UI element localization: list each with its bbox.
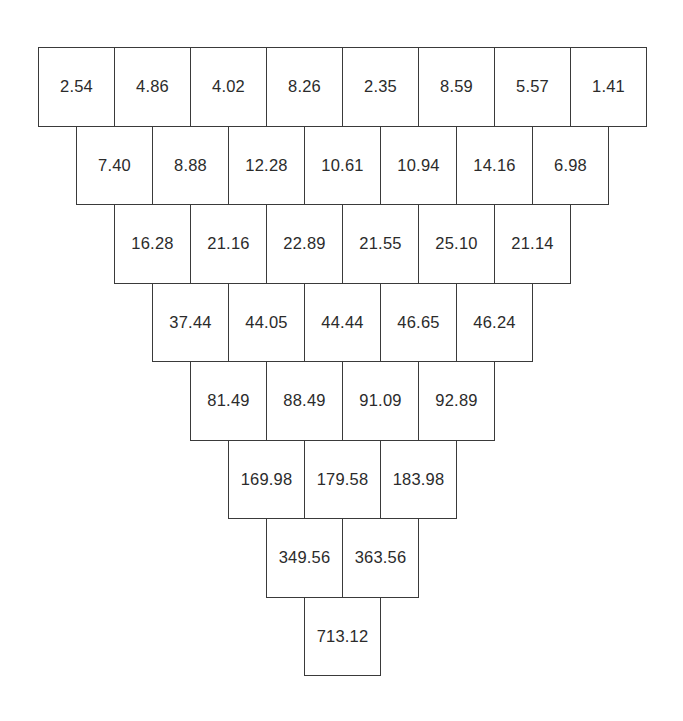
pyramid-cell: 5.57 bbox=[494, 47, 571, 127]
pyramid-cell: 183.98 bbox=[380, 440, 457, 520]
pyramid-cell: 16.28 bbox=[114, 204, 191, 284]
pyramid-cell: 21.16 bbox=[190, 204, 267, 284]
pyramid-cell: 25.10 bbox=[418, 204, 495, 284]
pyramid-cell: 81.49 bbox=[190, 361, 267, 441]
pyramid-cell: 169.98 bbox=[228, 440, 305, 520]
pyramid-cell: 10.94 bbox=[380, 126, 457, 206]
pyramid-cell: 44.44 bbox=[304, 283, 381, 363]
pyramid-cell: 8.26 bbox=[266, 47, 343, 127]
pyramid-cell: 46.65 bbox=[380, 283, 457, 363]
pyramid-cell: 4.86 bbox=[114, 47, 191, 127]
pyramid-cell: 2.35 bbox=[342, 47, 419, 127]
pyramid-cell: 8.59 bbox=[418, 47, 495, 127]
pyramid-cell: 37.44 bbox=[152, 283, 229, 363]
pyramid-cell: 6.98 bbox=[532, 126, 609, 206]
pyramid-cell: 92.89 bbox=[418, 361, 495, 441]
pyramid-cell: 88.49 bbox=[266, 361, 343, 441]
pyramid-cell: 12.28 bbox=[228, 126, 305, 206]
pyramid-cell: 22.89 bbox=[266, 204, 343, 284]
pyramid-cell: 713.12 bbox=[304, 597, 381, 677]
pyramid-cell: 91.09 bbox=[342, 361, 419, 441]
pyramid-cell: 1.41 bbox=[570, 47, 647, 127]
pyramid-cell: 4.02 bbox=[190, 47, 267, 127]
pyramid-cell: 8.88 bbox=[152, 126, 229, 206]
pyramid-cell: 44.05 bbox=[228, 283, 305, 363]
pyramid-cell: 179.58 bbox=[304, 440, 381, 520]
number-pyramid: 2.544.864.028.262.358.595.571.417.408.88… bbox=[0, 0, 683, 721]
pyramid-cell: 10.61 bbox=[304, 126, 381, 206]
pyramid-cell: 2.54 bbox=[38, 47, 115, 127]
pyramid-cell: 363.56 bbox=[342, 518, 419, 598]
pyramid-cell: 7.40 bbox=[76, 126, 153, 206]
pyramid-cell: 14.16 bbox=[456, 126, 533, 206]
pyramid-cell: 46.24 bbox=[456, 283, 533, 363]
pyramid-cell: 21.14 bbox=[494, 204, 571, 284]
pyramid-cell: 349.56 bbox=[266, 518, 343, 598]
pyramid-cell: 21.55 bbox=[342, 204, 419, 284]
